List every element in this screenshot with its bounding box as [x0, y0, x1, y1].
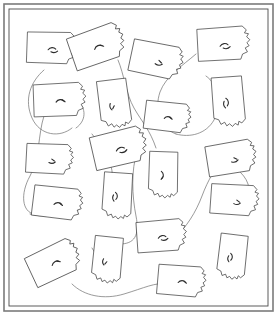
figure-svg — [0, 0, 277, 315]
map-outline-11 — [148, 152, 179, 199]
figure-canvas — [0, 0, 277, 315]
